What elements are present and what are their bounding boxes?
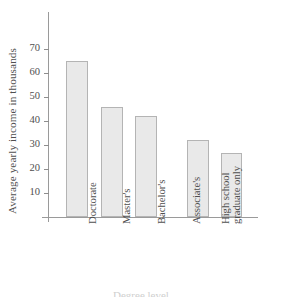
x-axis-category-line: High school [220,173,231,225]
y-axis-tick-label: 60 [18,67,40,78]
x-axis-category-line: Master's [121,189,132,224]
x-axis-category-label: Master's [122,144,138,224]
y-axis-tick [44,121,49,122]
y-axis-title: Average yearly income in thousands [6,4,28,214]
x-axis-category-label: High schoolgraduate only [221,144,247,224]
bar [66,61,88,217]
x-axis-title: Degree level [0,290,282,297]
y-axis-tick-label: 40 [18,115,40,126]
y-axis-tick-label: 20 [18,163,40,174]
y-axis-tick-label: 30 [18,139,40,150]
bar [135,116,157,217]
y-axis-line [48,12,49,218]
y-axis-tick-label: 70 [18,43,40,54]
y-axis-tick [44,97,49,98]
bar-chart: Average yearly income in thousands 10203… [0,0,282,297]
x-axis-category-line: graduate only [232,144,243,224]
bar [101,107,123,217]
y-axis-tick [44,49,49,50]
x-axis-category-label: Doctorate [88,144,104,224]
x-axis-category-label: Bachelor's [157,144,173,224]
y-axis-origin-stub [48,217,49,222]
x-axis-category-line: Bachelor's [156,180,167,224]
x-axis-category-line: Associate's [191,177,202,224]
y-axis-tick [44,193,49,194]
y-axis-tick-label: 50 [18,91,40,102]
y-axis-tick [44,145,49,146]
x-axis-category-line: Doctorate [87,182,98,224]
y-axis-tick [44,73,49,74]
y-axis-tick-label: 10 [18,187,40,198]
x-axis-category-label: Associate's [192,144,208,224]
y-axis-tick [44,169,49,170]
